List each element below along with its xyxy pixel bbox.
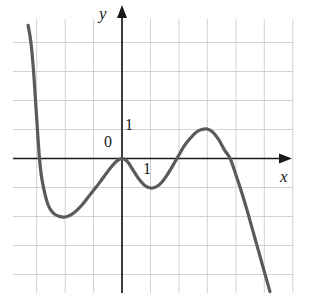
y-axis-arrowhead [117, 5, 127, 18]
vertical-gridlines [37, 19, 293, 293]
graph-figure: y x 0 1 1 [0, 0, 313, 297]
origin-label: 0 [104, 134, 112, 150]
y-axis-unit-tick-label: 1 [125, 117, 133, 133]
y-axis-label: y [99, 5, 107, 22]
x-axis-arrowhead [279, 154, 292, 164]
x-axis-label: x [280, 168, 288, 185]
plot-canvas [0, 0, 313, 297]
x-axis-unit-tick-label: 1 [143, 161, 151, 177]
